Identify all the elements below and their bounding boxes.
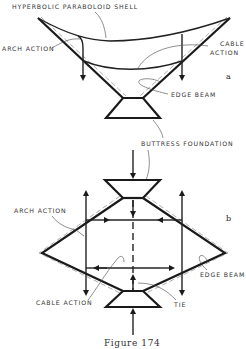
leader-shell bbox=[95, 12, 106, 38]
leader-edge-beam-a bbox=[139, 79, 168, 94]
sublabel-a: a bbox=[226, 72, 231, 81]
label-arch-action-a: ARCH ACTION bbox=[2, 45, 55, 52]
beam-shadow-right bbox=[140, 17, 227, 96]
figure-a: HYPERBOLIC PARABOLOID SHELL ARCH ACTION … bbox=[2, 3, 245, 118]
figure-b: ARCH ACTION b EDGE BEAM CABLE ACTION TIE bbox=[14, 150, 245, 335]
label-edge-beam-b: EDGE BEAM bbox=[200, 271, 245, 278]
label-hyperbolic-paraboloid-shell: HYPERBOLIC PARABOLOID SHELL bbox=[12, 3, 138, 10]
buttress-foundation-a bbox=[106, 98, 160, 118]
buttress-foundation-bottom bbox=[106, 291, 160, 307]
label-edge-beam-a: EDGE BEAM bbox=[171, 91, 216, 98]
edge-beam-right bbox=[143, 18, 230, 98]
label-cable-line2: ACTION bbox=[210, 49, 239, 56]
sublabel-b: b bbox=[226, 214, 231, 223]
label-buttress-foundation: BUTTRESS FOUNDATION bbox=[141, 140, 233, 147]
label-cable-line1: CABLE bbox=[220, 40, 245, 47]
leader-buttress-b bbox=[146, 150, 149, 180]
leader-arch-action-b bbox=[52, 216, 84, 236]
figure-caption: Figure 174 bbox=[104, 338, 160, 348]
beam-shadow-right-b bbox=[146, 196, 228, 293]
buttress-foundation-top bbox=[105, 180, 160, 198]
label-arch-action-b: ARCH ACTION bbox=[14, 207, 67, 214]
shell-upper-curve bbox=[38, 18, 230, 41]
label-tie: TIE bbox=[173, 301, 186, 308]
shell-lower-curve bbox=[84, 61, 182, 69]
edge-beam-left bbox=[38, 18, 123, 98]
structural-diagram: HYPERBOLIC PARABOLOID SHELL ARCH ACTION … bbox=[0, 0, 246, 349]
leader-buttress-a bbox=[153, 120, 163, 138]
label-cable-action-b: CABLE ACTION bbox=[36, 299, 92, 306]
